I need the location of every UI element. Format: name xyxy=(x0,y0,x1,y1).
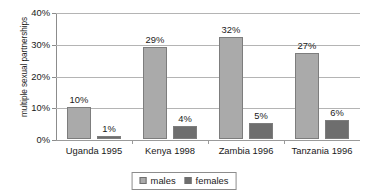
x-axis-tick xyxy=(132,140,133,144)
bar-rect xyxy=(67,107,91,139)
bar-value-label: 27% xyxy=(298,40,317,51)
y-tick-label-40: 40% xyxy=(31,8,50,18)
y-tick-label-30: 30% xyxy=(31,40,50,50)
bar-rect xyxy=(97,136,121,139)
bar-rect xyxy=(173,126,197,139)
bar-chart: multiple sexual partnerships 0%10%20%30%… xyxy=(0,0,368,196)
bar-females[interactable]: 1% xyxy=(97,12,121,139)
bar-value-label: 1% xyxy=(102,123,116,134)
bar-value-label: 32% xyxy=(222,24,241,35)
bar-males[interactable]: 29% xyxy=(143,12,167,139)
bar-males[interactable]: 10% xyxy=(67,12,91,139)
bar-group: 10%1% xyxy=(56,13,132,140)
y-tick-mark-0 xyxy=(52,140,56,141)
bar-group: 29%4% xyxy=(132,13,208,140)
bar-females[interactable]: 4% xyxy=(173,12,197,139)
bar-group: 32%5% xyxy=(208,13,284,140)
bar-rect xyxy=(325,120,349,139)
bar-rect xyxy=(249,123,273,139)
bar-males[interactable]: 27% xyxy=(295,12,319,139)
bar-value-label: 6% xyxy=(330,107,344,118)
bar-group: 27%6% xyxy=(284,13,360,140)
bar-value-label: 4% xyxy=(178,113,192,124)
bar-females[interactable]: 5% xyxy=(249,12,273,139)
legend-swatch-females xyxy=(185,177,192,184)
x-axis-category-label: Uganda 1995 xyxy=(66,145,122,156)
x-axis-category-label: Kenya 1998 xyxy=(145,145,195,156)
legend-item-males[interactable]: males xyxy=(140,175,176,186)
bar-value-label: 10% xyxy=(70,94,89,105)
legend-label-females: females xyxy=(196,175,229,186)
chart-legend: males females xyxy=(132,172,237,190)
x-axis-category-label: Zambia 1996 xyxy=(219,145,274,156)
plot-area: 0%10%20%30%40% 10%1%29%4%32%5%27%6% xyxy=(56,13,360,140)
bar-value-label: 29% xyxy=(146,34,165,45)
bar-rect xyxy=(295,53,319,139)
y-axis-title: multiple sexual partnerships xyxy=(19,0,29,143)
x-axis-category-label: Tanzania 1996 xyxy=(292,145,353,156)
bar-females[interactable]: 6% xyxy=(325,12,349,139)
legend-label-males: males xyxy=(151,175,176,186)
bar-males[interactable]: 32% xyxy=(219,12,243,139)
bar-rect xyxy=(143,47,167,139)
legend-swatch-males xyxy=(140,177,147,184)
legend-item-females[interactable]: females xyxy=(185,175,229,186)
y-tick-label-0: 0% xyxy=(36,135,50,145)
y-tick-label-10: 10% xyxy=(31,103,50,113)
y-tick-label-20: 20% xyxy=(31,72,50,82)
x-axis-tick xyxy=(208,140,209,144)
bar-rect xyxy=(219,37,243,139)
x-axis-tick xyxy=(284,140,285,144)
bar-value-label: 5% xyxy=(254,110,268,121)
